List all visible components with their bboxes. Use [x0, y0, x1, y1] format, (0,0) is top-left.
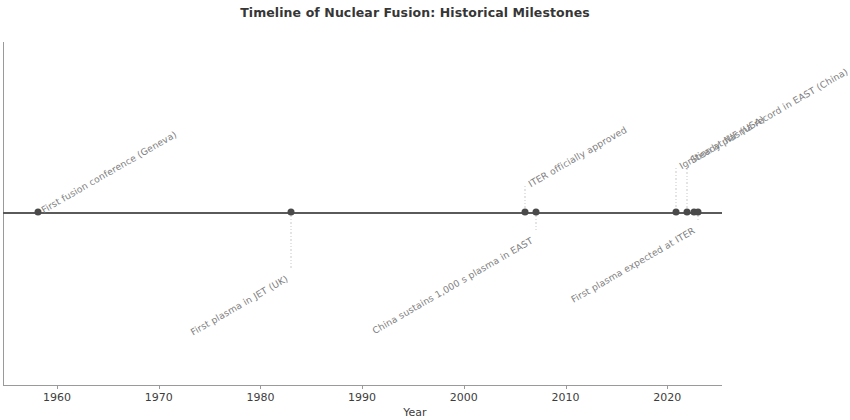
x-axis-tick-label: 2010 — [552, 391, 580, 404]
x-axis-tick-label: 1960 — [43, 391, 71, 404]
x-axis-tick — [260, 385, 261, 389]
event-marker[interactable] — [684, 209, 691, 216]
x-axis-tick-label: 1980 — [246, 391, 274, 404]
plot-area — [3, 42, 730, 386]
chart-title: Timeline of Nuclear Fusion: Historical M… — [0, 5, 830, 20]
axis-spine-left — [3, 42, 4, 386]
x-axis-tick-label: 2020 — [653, 391, 681, 404]
x-axis-tick-label: 1990 — [348, 391, 376, 404]
event-stem — [291, 212, 292, 270]
x-axis-tick-label: 1970 — [145, 391, 173, 404]
event-marker[interactable] — [533, 209, 540, 216]
x-axis-label: Year — [0, 406, 830, 419]
x-axis-tick — [566, 385, 567, 389]
event-stem — [687, 162, 688, 212]
x-axis-tick — [362, 385, 363, 389]
event-marker[interactable] — [35, 209, 42, 216]
event-marker[interactable] — [695, 209, 702, 216]
timeline-baseline — [3, 212, 722, 214]
x-axis-tick — [464, 385, 465, 389]
event-stem — [676, 168, 677, 212]
x-axis-tick — [667, 385, 668, 389]
event-marker[interactable] — [522, 209, 529, 216]
x-axis-tick — [159, 385, 160, 389]
event-marker[interactable] — [288, 209, 295, 216]
x-axis-tick — [57, 385, 58, 389]
x-axis-tick-label: 2000 — [450, 391, 478, 404]
event-marker[interactable] — [673, 209, 680, 216]
